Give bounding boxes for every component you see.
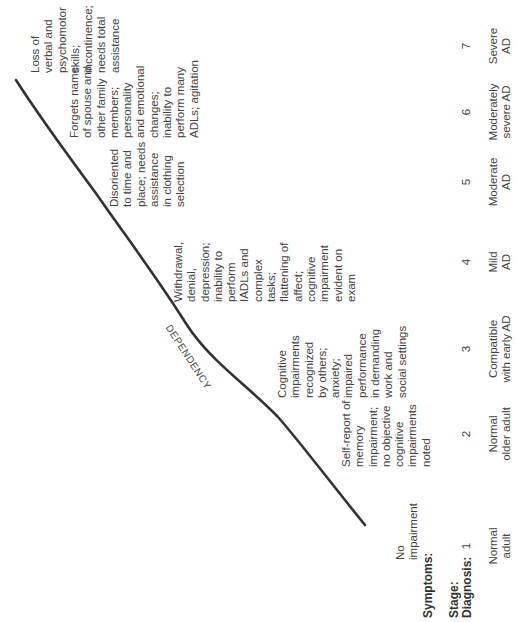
stage-diagnosis: Normal older adult bbox=[487, 394, 514, 474]
stage-3: 3 Compatible with early AD bbox=[447, 309, 517, 389]
stage-number: 3 bbox=[460, 309, 473, 389]
stage-diagnosis: Compatible with early AD bbox=[487, 309, 514, 389]
diagnosis-row-label: Diagnosis: bbox=[461, 557, 475, 618]
symptoms-stage-5: Disoriented to time and place; needs ass… bbox=[108, 142, 188, 207]
symptoms-stage-3: Cognitive impairments recognized by othe… bbox=[276, 326, 409, 398]
stage-number: 7 bbox=[460, 6, 473, 86]
stage-diagnosis: Severe AD bbox=[487, 6, 514, 86]
symptoms-stage-7: Loss of verbal and psychomotor skills; i… bbox=[29, 5, 122, 73]
stage-diagnosis: Mild AD bbox=[487, 222, 514, 302]
stage-diagnosis: Moderate AD bbox=[487, 142, 514, 222]
stage-1: 1 Normal adult bbox=[447, 506, 517, 586]
symptoms-stage-1: No impairment bbox=[394, 503, 421, 560]
stage-number: 4 bbox=[460, 222, 473, 302]
stage-7: 7 Severe AD bbox=[447, 6, 517, 86]
symptoms-stage-2: Self-report of memory impairment; no obj… bbox=[340, 401, 433, 467]
stage-4: 4 Mild AD bbox=[447, 222, 517, 302]
stage-number: 2 bbox=[460, 394, 473, 474]
symptoms-stage-4: Withdrawal, denial, depression; inabilit… bbox=[172, 242, 358, 302]
stage-5: 5 Moderate AD bbox=[447, 142, 517, 222]
stage-2: 2 Normal older adult bbox=[447, 394, 517, 474]
symptoms-row-label: Symptoms: bbox=[422, 553, 436, 618]
stage-number: 5 bbox=[460, 142, 473, 222]
stage-diagnosis: Normal adult bbox=[487, 506, 514, 586]
